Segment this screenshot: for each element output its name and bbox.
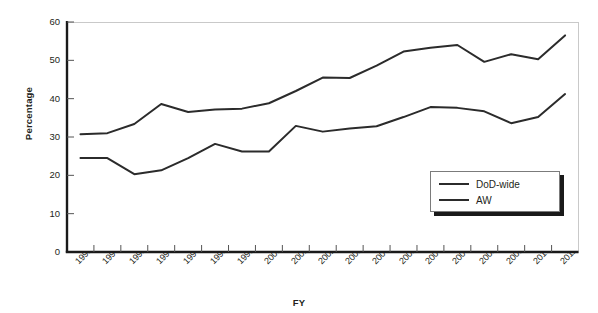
plot-area xyxy=(0,0,598,313)
legend-item-dod-wide[interactable]: DoD-wide xyxy=(439,177,520,191)
legend-swatch-dod-wide xyxy=(439,183,469,185)
legend-label-dod-wide: DoD-wide xyxy=(476,179,520,190)
legend-label-aw: AW xyxy=(476,195,492,206)
legend[interactable]: DoD-wide AW xyxy=(430,171,560,212)
chart-figure: Percentage 0102030405060 199319941995199… xyxy=(0,0,598,313)
x-axis-title: FY xyxy=(0,297,598,308)
legend-swatch-aw xyxy=(439,199,469,201)
legend-item-aw[interactable]: AW xyxy=(439,193,492,207)
